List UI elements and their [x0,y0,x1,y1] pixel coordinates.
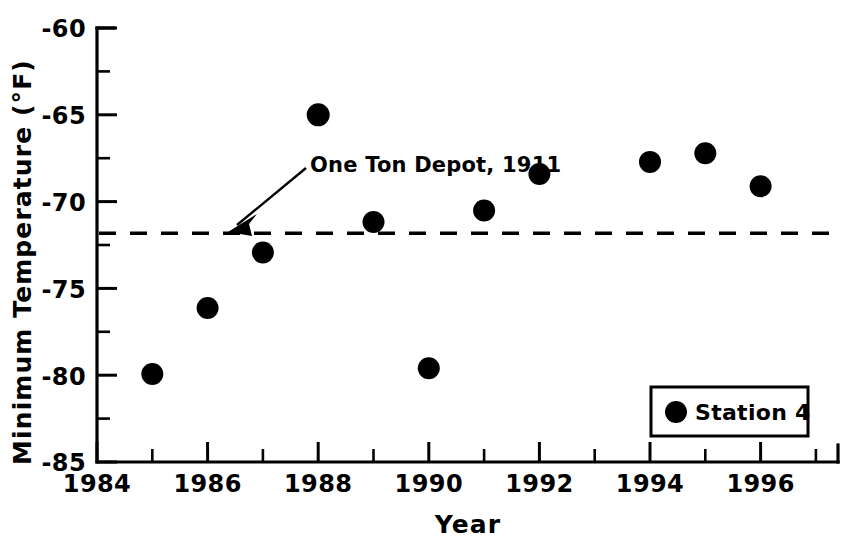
y-tick-label: -65 [41,102,86,130]
data-point [141,363,163,385]
x-tick-label: 1994 [616,470,684,498]
y-axis-title: Minimum Temperature (°F) [8,59,37,465]
x-tick-label: 1992 [505,470,573,498]
x-axis-ticks [97,442,816,462]
legend: Station 4 [651,387,811,436]
scatter-plot-svg: Minimum Temperature (°F) -60 -65 -70 -75… [0,0,854,548]
data-point [694,142,716,164]
y-tick-labels: -60 -65 -70 -75 -80 -85 [41,15,86,477]
y-tick-label: -75 [41,276,86,304]
x-tick-label: 1984 [63,470,131,498]
x-tick-label: 1988 [284,470,352,498]
data-point [197,297,219,319]
y-tick-label: -70 [41,189,86,217]
x-tick-label: 1990 [395,470,463,498]
annotation-one-ton-depot: One Ton Depot, 1911 [228,153,561,236]
x-tick-label: 1996 [726,470,794,498]
data-point [363,211,385,233]
annotation-arrow-head [228,214,257,236]
data-point [307,103,330,126]
chart-figure: Minimum Temperature (°F) -60 -65 -70 -75… [0,0,854,548]
data-point [473,200,495,222]
data-point [528,163,550,185]
data-point [639,151,661,173]
legend-label: Station 4 [695,400,811,425]
legend-marker-icon [665,401,687,423]
series-station-4 [141,103,771,385]
data-point [252,242,274,264]
data-point [418,357,440,379]
y-tick-label: -80 [41,363,86,391]
annotation-label: One Ton Depot, 1911 [310,153,561,177]
x-tick-label: 1986 [173,470,241,498]
x-axis-title: Year [434,510,501,539]
y-axis-ticks [97,28,117,462]
y-tick-label: -60 [41,15,86,43]
data-point [750,175,772,197]
annotation-arrow-shaft [237,168,306,225]
x-tick-labels: 1984 1986 1988 1990 1992 1994 1996 [63,470,795,498]
